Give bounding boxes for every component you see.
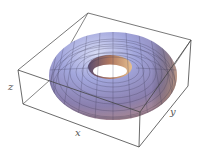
axis-label-y: y (170, 107, 176, 117)
torus-surface (49, 32, 177, 120)
axis-label-x: x (75, 128, 81, 138)
torus-plot (0, 0, 201, 158)
axis-label-z: z (8, 82, 13, 92)
